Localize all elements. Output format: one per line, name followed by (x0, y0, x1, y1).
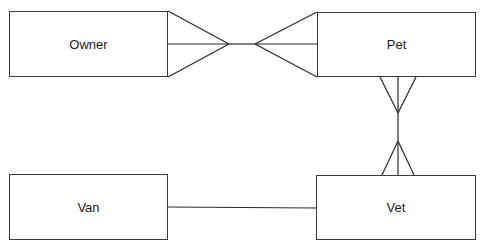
entity-owner-label: Owner (69, 37, 107, 52)
connector-van-vet (168, 207, 316, 208)
crows-foot-vet-top-icon (382, 141, 414, 175)
er-diagram: Owner Pet Van Vet (0, 0, 481, 249)
entity-vet[interactable]: Vet (316, 175, 476, 240)
crows-foot-owner-icon (168, 11, 229, 77)
relationship-pet-vet (380, 77, 416, 175)
entity-vet-label: Vet (387, 200, 406, 215)
crows-foot-pet-icon (255, 12, 317, 77)
entity-pet[interactable]: Pet (317, 12, 476, 77)
relationship-owner-pet (168, 11, 317, 77)
entity-pet-label: Pet (387, 37, 407, 52)
entity-van-label: Van (77, 200, 99, 215)
entity-owner[interactable]: Owner (9, 11, 168, 77)
crows-foot-pet-bottom-icon (380, 77, 416, 113)
entity-van[interactable]: Van (9, 174, 168, 240)
